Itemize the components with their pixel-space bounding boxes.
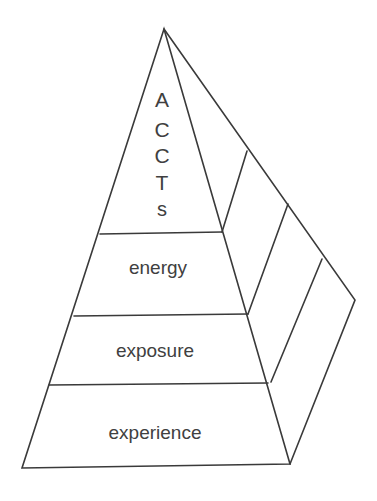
top-letter-5: s (157, 198, 167, 220)
level-label-energy: energy (129, 257, 188, 278)
top-letter-1: A (155, 88, 169, 111)
divider-exposure-experience (49, 383, 268, 385)
divider-energy-exposure (74, 314, 248, 316)
divider-accts-energy (100, 232, 222, 234)
pyramid-right-face (164, 29, 355, 464)
top-level-label: A C C T s (154, 88, 169, 220)
level-label-exposure: exposure (116, 340, 194, 361)
top-letter-2: C (154, 118, 169, 141)
top-letter-4: T (156, 171, 169, 194)
right-face-divider-1 (222, 151, 247, 232)
pyramid-diagram: A C C T s energy exposure experience (0, 0, 377, 501)
level-label-experience: experience (109, 422, 202, 443)
top-letter-3: C (154, 144, 169, 167)
right-face-divider-2 (248, 204, 288, 314)
right-face-divider-3 (271, 259, 322, 382)
